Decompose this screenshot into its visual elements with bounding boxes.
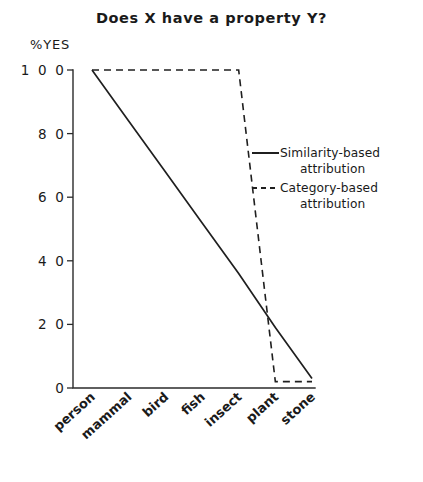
y-tick-label: 1 0 0 [21,62,66,78]
y-tick-label: 8 0 [38,126,66,142]
axis-lines [73,70,315,388]
legend-label-1: Similarity-based [280,146,380,160]
y-axis-label: %YES [30,37,70,52]
data-series-layer [92,70,312,382]
y-tick-label: 4 0 [38,253,66,269]
line-chart: %YES 02 04 06 08 01 0 0 personmammalbird… [0,0,423,482]
x-axis-tick-labels: personmammalbirdfishinsectplantstone [50,389,318,442]
y-tick-label: 2 0 [38,316,66,332]
y-tick-label: 6 0 [38,189,66,205]
legend-label-2: Category-based [280,181,378,195]
chart-page: Does X have a property Y? %YES 02 04 06 … [0,0,423,482]
y-axis-label-group: %YES [30,37,70,52]
y-axis-ticks: 02 04 06 08 01 0 0 [21,62,73,396]
x-tick-label: plant [243,389,281,426]
x-tick-label: fish [178,389,208,418]
chart-legend: Similarity-basedattributionCategory-base… [252,146,380,211]
x-tick-label: insect [202,389,245,430]
series-line-1 [92,70,312,378]
x-tick-label: stone [278,389,319,428]
legend-label-cont-1: attribution [300,162,365,176]
axes [73,70,315,388]
y-tick-label: 0 [55,380,66,396]
x-tick-label: bird [139,389,171,420]
legend-label-cont-2: attribution [300,197,365,211]
